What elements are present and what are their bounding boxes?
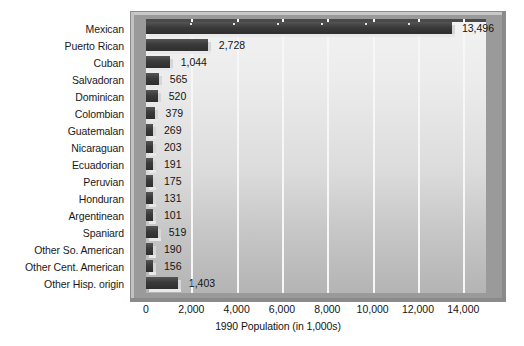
y-axis-tick-label: Peruvian bbox=[0, 174, 128, 191]
bar-row: 1,403 bbox=[146, 276, 506, 293]
bar-row: 203 bbox=[146, 140, 506, 157]
x-axis-tick-label: 0 bbox=[143, 303, 149, 315]
bar-row: 175 bbox=[146, 174, 506, 191]
frame-bevel-left bbox=[131, 12, 134, 301]
bar-marker-dot bbox=[321, 23, 323, 25]
chart-figure: Mexican Puerto Rican Cuban Salvadoran Do… bbox=[0, 0, 524, 346]
bar[interactable] bbox=[146, 141, 153, 153]
y-axis-tick-label: Argentinean bbox=[0, 208, 128, 225]
y-axis-tick-label: Dominican bbox=[0, 89, 128, 106]
bar[interactable] bbox=[146, 56, 170, 68]
bar-value-label: 190 bbox=[156, 242, 182, 257]
bar[interactable] bbox=[146, 39, 208, 51]
bar-row: 191 bbox=[146, 157, 506, 174]
bar[interactable] bbox=[146, 243, 153, 255]
x-axis-title-text: 1990 Population (in 1,000s) bbox=[215, 320, 341, 332]
bar-value-label: 519 bbox=[161, 225, 187, 240]
bar-row: 2,728 bbox=[146, 38, 506, 55]
bar-row: 156 bbox=[146, 259, 506, 276]
bar-row: 1,044 bbox=[146, 55, 506, 72]
y-axis-tick-label: Nicaraguan bbox=[0, 140, 128, 157]
x-axis-tick-label: 12,000 bbox=[402, 303, 434, 315]
bar[interactable] bbox=[146, 107, 155, 119]
bar-value-label: 379 bbox=[158, 106, 184, 121]
y-axis-tick-label: Cuban bbox=[0, 55, 128, 72]
bar-marker-dot bbox=[408, 23, 410, 25]
y-axis-tick-label: Spaniard bbox=[0, 225, 128, 242]
x-axis-tick-label: 6,000 bbox=[269, 303, 295, 315]
bar-marker-dot bbox=[365, 23, 367, 25]
bar-marker-dot bbox=[233, 23, 235, 25]
frame-bevel-top bbox=[131, 12, 505, 15]
bar-row: 379 bbox=[146, 106, 506, 123]
bar-value-label: 565 bbox=[162, 72, 188, 87]
y-axis-tick-label: Guatemalan bbox=[0, 123, 128, 140]
bar[interactable] bbox=[146, 277, 178, 289]
frame-bevel-bottom bbox=[131, 298, 505, 301]
bar-value-label: 203 bbox=[156, 140, 182, 155]
bar-row: 269 bbox=[146, 123, 506, 140]
x-axis-tick-label: 8,000 bbox=[314, 303, 340, 315]
bar-value-label: 156 bbox=[156, 259, 182, 274]
bar[interactable] bbox=[146, 209, 153, 221]
y-axis-category-labels: Mexican Puerto Rican Cuban Salvadoran Do… bbox=[0, 21, 128, 293]
y-axis-tick-label: Honduran bbox=[0, 191, 128, 208]
bar[interactable] bbox=[146, 73, 159, 85]
bar-value-label: 520 bbox=[161, 89, 187, 104]
bar[interactable] bbox=[146, 158, 153, 170]
x-axis-tick-label: 2,000 bbox=[178, 303, 204, 315]
bar-value-label: 175 bbox=[156, 174, 182, 189]
bar-value-label: 1,044 bbox=[173, 55, 207, 70]
bar-value-label: 1,403 bbox=[181, 276, 215, 291]
y-axis-tick-label: Mexican bbox=[0, 21, 128, 38]
bar-row: 101 bbox=[146, 208, 506, 225]
x-axis-tick-label: 10,000 bbox=[357, 303, 389, 315]
bar[interactable] bbox=[146, 22, 452, 34]
y-axis-tick-label: Colombian bbox=[0, 106, 128, 123]
bar-row: 565 bbox=[146, 72, 506, 89]
bar[interactable] bbox=[146, 124, 153, 136]
y-axis-tick-label: Other So. American bbox=[0, 242, 128, 259]
bar[interactable] bbox=[146, 175, 153, 187]
bar[interactable] bbox=[146, 226, 158, 238]
bar-marker-dot bbox=[190, 23, 192, 25]
bar[interactable] bbox=[146, 90, 158, 102]
bar-row: 131 bbox=[146, 191, 506, 208]
bar-value-label: 131 bbox=[156, 191, 182, 206]
bar-row: 13,496 bbox=[146, 21, 506, 38]
y-axis-tick-label: Other Cent. American bbox=[0, 259, 128, 276]
bar-value-label: 13,496 bbox=[455, 21, 494, 36]
y-axis-tick-label: Other Hisp. origin bbox=[0, 276, 128, 293]
bar-value-label: 101 bbox=[156, 208, 182, 223]
bar-series: 13,4962,7281,044565520379269203191175131… bbox=[146, 21, 506, 293]
bar-marker-dot bbox=[277, 23, 279, 25]
bar-value-label: 191 bbox=[156, 157, 182, 172]
bar[interactable] bbox=[146, 260, 153, 272]
x-axis-tick-label: 4,000 bbox=[224, 303, 250, 315]
bar-row: 519 bbox=[146, 225, 506, 242]
y-axis-tick-label: Salvadoran bbox=[0, 72, 128, 89]
y-axis-tick-label: Ecuadorian bbox=[0, 157, 128, 174]
bar-value-label: 2,728 bbox=[211, 38, 245, 53]
bar-value-label: 269 bbox=[156, 123, 182, 138]
bar-row: 190 bbox=[146, 242, 506, 259]
bar[interactable] bbox=[146, 192, 153, 204]
x-axis-tick-label: 14,000 bbox=[447, 303, 479, 315]
x-axis-title: 1990 Population (in 1,000s) bbox=[0, 320, 524, 332]
bar-row: 520 bbox=[146, 89, 506, 106]
x-axis-tick-labels: 02,0004,0006,0008,00010,00012,00014,000 bbox=[0, 303, 524, 319]
y-axis-tick-label: Puerto Rican bbox=[0, 38, 128, 55]
